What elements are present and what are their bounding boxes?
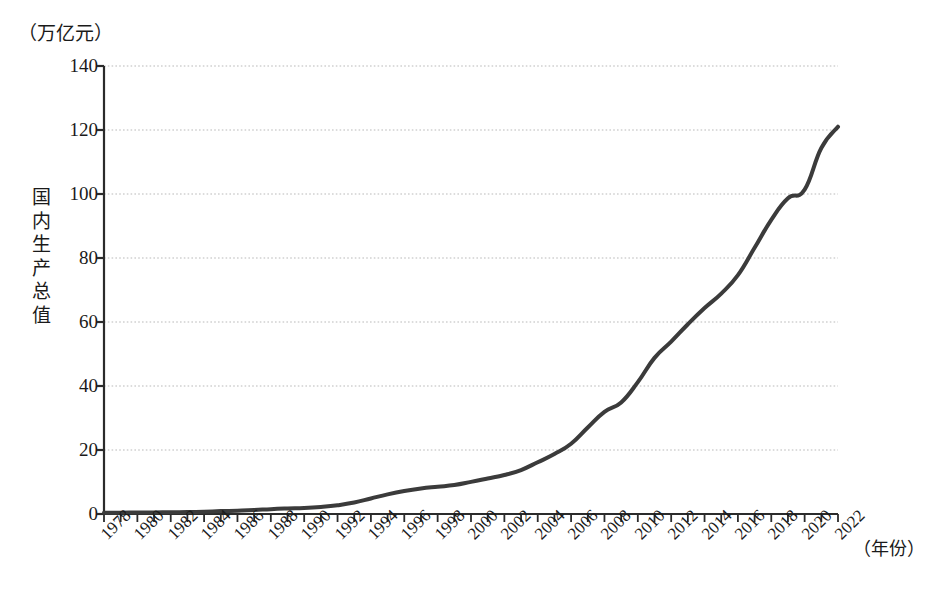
axis-line-group: [104, 66, 838, 514]
gdp-data-line: [104, 127, 838, 513]
x-axis-unit-label: （年份）: [853, 534, 925, 560]
gridline-group: [104, 66, 838, 450]
gdp-line-chart-figure: （万亿元） 国内生产总值 020406080100120140 19781980…: [0, 0, 927, 604]
